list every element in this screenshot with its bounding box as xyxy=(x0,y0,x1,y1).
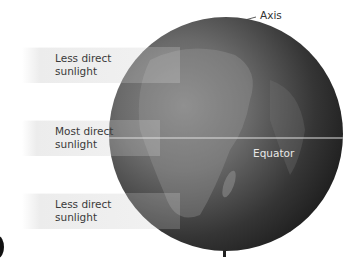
beam-label-bottom-line2: sunlight xyxy=(55,211,111,224)
beam-label-top-line2: sunlight xyxy=(55,65,111,78)
beam-label-middle-line2: sunlight xyxy=(55,138,113,151)
equator-label: Equator xyxy=(253,147,294,159)
axis-label: Axis xyxy=(260,9,282,21)
beam-label-top: Less direct sunlight xyxy=(55,52,111,78)
earth-globe xyxy=(0,0,349,266)
beam-label-bottom-line1: Less direct xyxy=(55,198,111,211)
beam-label-middle: Most direct sunlight xyxy=(55,125,113,151)
beam-label-middle-line1: Most direct xyxy=(55,125,113,138)
beam-label-bottom: Less direct sunlight xyxy=(55,198,111,224)
beam-label-top-line1: Less direct xyxy=(55,52,111,65)
earth-sunlight-diagram: Less direct sunlight Most direct sunligh… xyxy=(0,0,349,266)
